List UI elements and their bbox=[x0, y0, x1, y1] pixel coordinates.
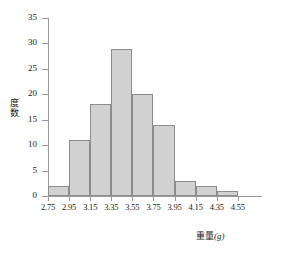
y-tick-label: 10 bbox=[11, 140, 37, 149]
x-axis-title-name: 重量 bbox=[196, 231, 214, 241]
y-tick-label: 15 bbox=[11, 115, 37, 124]
bar-4.15-4.35 bbox=[196, 186, 217, 196]
y-tick-label: 25 bbox=[11, 64, 37, 73]
y-tick-label: 35 bbox=[11, 13, 37, 22]
x-axis-line bbox=[48, 196, 262, 197]
x-tick-mark bbox=[175, 197, 176, 201]
x-tick-mark bbox=[217, 197, 218, 201]
bar-2.75-2.95 bbox=[48, 186, 69, 196]
x-tick-mark bbox=[111, 197, 112, 201]
y-tick-label: 0 bbox=[11, 191, 37, 200]
bar-3.55-3.75 bbox=[132, 94, 153, 196]
bar-3.95-4.15 bbox=[175, 181, 196, 196]
bar-3.35-3.55 bbox=[111, 49, 132, 196]
y-tick-label: 20 bbox=[11, 89, 37, 98]
y-tick-label: 30 bbox=[11, 38, 37, 47]
x-axis-title-unit: (g) bbox=[214, 231, 225, 241]
histogram-chart: 度 数 05101520253035 2.752.953.153.353.553… bbox=[0, 0, 284, 254]
bar-2.95-3.15 bbox=[69, 140, 90, 196]
y-tick-label: 5 bbox=[11, 166, 37, 175]
x-tick-mark bbox=[153, 197, 154, 201]
x-tick-mark bbox=[196, 197, 197, 201]
x-tick-mark bbox=[90, 197, 91, 201]
x-tick-mark bbox=[48, 197, 49, 201]
bar-3.15-3.35 bbox=[90, 104, 111, 196]
x-tick-mark bbox=[132, 197, 133, 201]
x-tick-label-4.55: 4.55 bbox=[224, 203, 252, 212]
bar-3.75-3.95 bbox=[153, 125, 174, 196]
x-tick-mark bbox=[238, 197, 239, 201]
y-axis-title-char-1: 度 bbox=[8, 98, 20, 108]
bar-4.35-4.55 bbox=[217, 191, 238, 196]
plot-area bbox=[48, 18, 260, 196]
x-tick-mark bbox=[69, 197, 70, 201]
x-axis-title: 重量(g) bbox=[196, 231, 225, 241]
